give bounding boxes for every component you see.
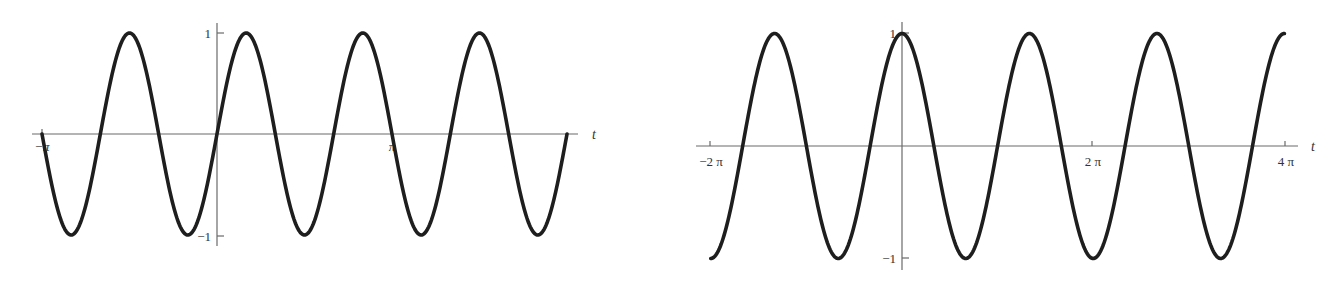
right-xtick-label-2pi: 2 π xyxy=(1085,154,1102,169)
right-xtick-label-4pi: 4 π xyxy=(1278,154,1295,169)
right-ytick-label-neg1: −1 xyxy=(882,251,896,266)
left-ytick-label-1: 1 xyxy=(205,26,212,41)
figure: 1 −1 −π π t 1 −1 −2 π 2 π 4 π t xyxy=(0,0,1335,282)
left-ytick-label-neg1: −1 xyxy=(197,229,211,244)
left-x-axis-label: t xyxy=(592,127,597,142)
left-chart: 1 −1 −π π t xyxy=(32,23,597,246)
right-x-axis-label: t xyxy=(1311,139,1316,154)
right-xtick-label-neg-2pi: −2 π xyxy=(699,154,723,169)
right-chart: 1 −1 −2 π 2 π 4 π t xyxy=(696,22,1316,270)
